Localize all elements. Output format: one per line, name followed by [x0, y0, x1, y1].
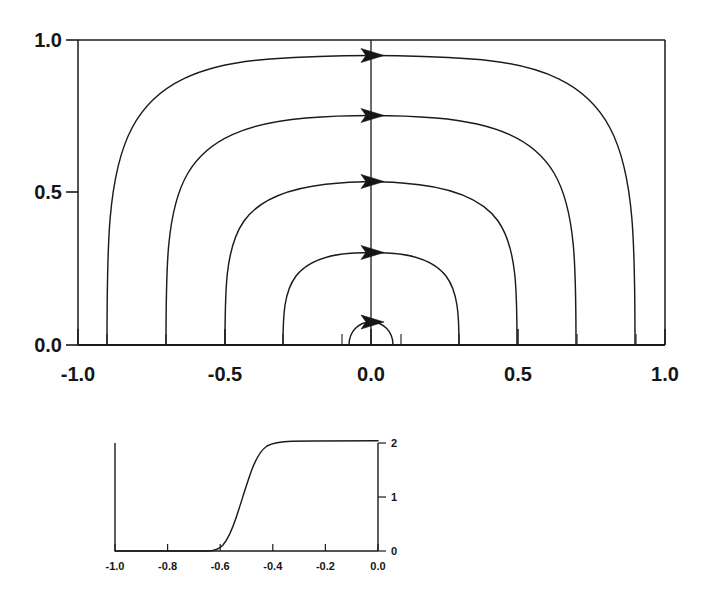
main-xtick-label--1.0: -1.0	[61, 363, 95, 385]
streamline-contour-plot: 1.0 0.5 0.0 -1.0 -0.5 0.0 0.5 1.0	[34, 29, 679, 385]
main-xtick-label-0.5: 0.5	[504, 363, 532, 385]
sub-ytick-label-0: 0	[391, 545, 397, 557]
arrowhead-streamline-5	[361, 315, 384, 329]
scientific-figure: 1.0 0.5 0.0 -1.0 -0.5 0.0 0.5 1.0	[0, 0, 720, 614]
sub-ytick-label-2: 2	[391, 437, 397, 449]
sub-xtick-label--0.4: -0.4	[263, 560, 283, 572]
main-xtick-label-1.0: 1.0	[651, 363, 679, 385]
main-ytick-label-0.5: 0.5	[34, 181, 62, 203]
sigmoid-profile-plot: 2 1 0 -1.0 -0.8 -0.6 -0.4 -0.2 0.0	[106, 437, 398, 572]
sub-xtick-label-0.0: 0.0	[370, 560, 385, 572]
sub-xtick-label--1.0: -1.0	[106, 560, 125, 572]
sub-yaxis-ticks	[378, 443, 386, 551]
sub-xaxis-ticks	[115, 544, 378, 551]
sub-xtick-label--0.6: -0.6	[211, 560, 230, 572]
main-xtick-label-0.0: 0.0	[357, 363, 385, 385]
main-ytick-label-1.0: 1.0	[34, 29, 62, 51]
sigmoid-curve	[115, 441, 378, 551]
main-xtick-label--0.5: -0.5	[208, 363, 242, 385]
sub-xtick-label--0.8: -0.8	[158, 560, 177, 572]
streamline-arrowheads	[361, 49, 384, 330]
sub-ytick-label-1: 1	[391, 491, 397, 503]
main-yaxis-ticks	[66, 40, 78, 345]
sub-xtick-label--0.2: -0.2	[316, 560, 335, 572]
main-ytick-label-0.0: 0.0	[34, 334, 62, 356]
